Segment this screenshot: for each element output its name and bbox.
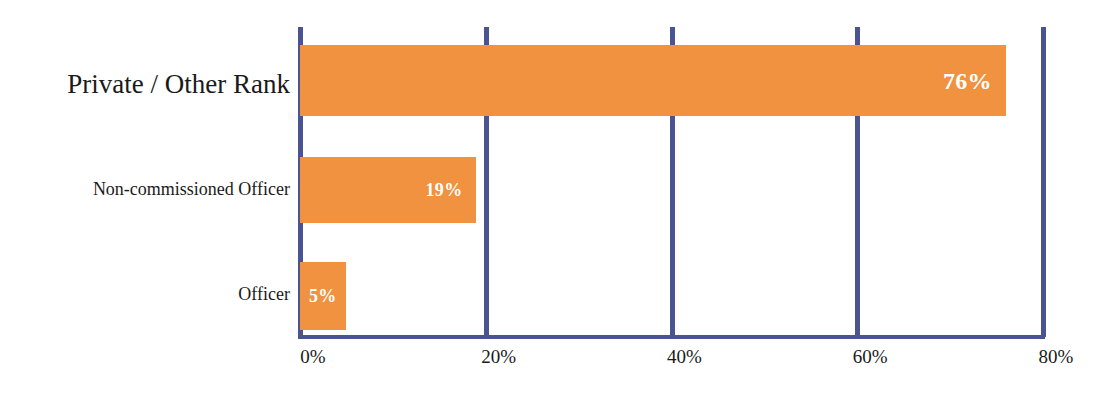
category-label-officer: Officer <box>0 285 290 303</box>
plot-area: 76% 19% 5% <box>300 27 1043 337</box>
table-row: 19% <box>300 157 1043 223</box>
bar-chart: 76% 19% 5% Private / Other Rank Non-comm… <box>0 0 1119 395</box>
bar-value-label: 19% <box>426 180 463 201</box>
x-tick-label-0: 0% <box>300 347 325 366</box>
category-label-non-commissioned-officer: Non-commissioned Officer <box>0 180 290 198</box>
x-tick-label-60: 60% <box>853 347 888 366</box>
bar-non-commissioned-officer[interactable]: 19% <box>300 157 476 223</box>
x-tick-label-20: 20% <box>481 347 516 366</box>
bar-value-label: 5% <box>309 286 337 307</box>
bar-officer[interactable]: 5% <box>300 262 346 330</box>
bar-private-other-rank[interactable]: 76% <box>300 45 1006 116</box>
bar-value-label: 76% <box>943 67 992 94</box>
x-tick-label-80: 80% <box>1039 347 1074 366</box>
x-tick-label-40: 40% <box>667 347 702 366</box>
table-row: 76% <box>300 45 1043 116</box>
x-axis-baseline <box>298 335 1045 339</box>
table-row: 5% <box>300 262 1043 330</box>
category-label-private-other-rank: Private / Other Rank <box>0 71 290 98</box>
